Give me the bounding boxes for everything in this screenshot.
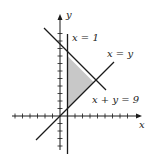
region-diagram: y x x = 1 x = y x + y = 9	[0, 0, 150, 161]
y-axis-arrow-icon	[58, 14, 63, 20]
label-x-plus-y-eq-9: x + y = 9	[92, 94, 140, 105]
x-axis-arrow-icon	[136, 114, 142, 119]
y-axis-label: y	[65, 9, 72, 20]
x-axis	[12, 114, 142, 119]
label-x-eq-y: x = y	[107, 48, 133, 59]
x-axis-label: x	[139, 119, 145, 130]
label-x-eq-1: x = 1	[72, 32, 99, 43]
y-axis	[58, 14, 63, 150]
